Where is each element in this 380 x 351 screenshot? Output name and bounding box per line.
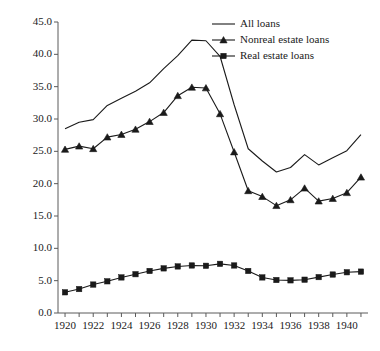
chart-plot-area — [0, 0, 380, 351]
y-tick-label: 5.0 — [8, 274, 52, 286]
y-tick-label: 30.0 — [8, 112, 52, 124]
axis-lines — [58, 22, 368, 313]
chart-container: 1920 $ Billions 0.05.010.015.020.025.030… — [0, 0, 380, 351]
x-tick-label: 1940 — [330, 319, 364, 331]
series-all-loans — [65, 40, 361, 172]
legend-marker-layer — [212, 24, 235, 59]
y-tick-label: 40.0 — [8, 47, 52, 59]
y-tick-label: 20.0 — [8, 177, 52, 189]
data-series-layer — [61, 40, 364, 295]
legend-item-label: All loans — [240, 17, 280, 29]
y-tick-label: 10.0 — [8, 241, 52, 253]
legend-item-label: Nonreal estate loans — [240, 33, 329, 45]
y-tick-label: 45.0 — [8, 15, 52, 27]
y-tick-label: 0.0 — [8, 306, 52, 318]
series-nonreal-estate-loans — [61, 84, 364, 209]
y-axis-ticks — [54, 22, 58, 313]
legend-item-label: Real estate loans — [240, 49, 314, 61]
y-tick-label: 35.0 — [8, 80, 52, 92]
y-tick-label: 15.0 — [8, 209, 52, 221]
y-tick-label: 25.0 — [8, 144, 52, 156]
series-real-estate-loans — [62, 261, 363, 295]
x-axis-ticks — [65, 313, 361, 317]
